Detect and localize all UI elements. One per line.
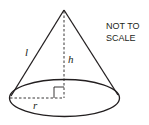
not-to-scale-line1: NOT TO (106, 21, 140, 31)
not-to-scale-line2: SCALE (106, 33, 136, 43)
cone-diagram: l h r NOT TO SCALE (0, 0, 149, 125)
radius-label: r (33, 99, 38, 111)
height-label: h (68, 53, 74, 65)
right-angle-marker (54, 87, 64, 98)
cone-left-side (11, 10, 64, 96)
slant-height-label: l (25, 46, 28, 58)
